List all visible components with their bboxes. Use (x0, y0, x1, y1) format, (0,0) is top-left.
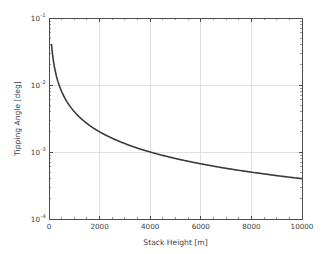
y-tick-exponent: -2 (41, 79, 46, 85)
chart-figure: 0200040006000800010000 10-110-210-310-4 … (0, 0, 322, 254)
x-tick-label: 8000 (242, 222, 261, 231)
y-tick-mantissa: 10 (31, 14, 41, 23)
x-tick-label: 0 (47, 222, 52, 231)
y-tick-exponent: -4 (41, 213, 46, 219)
y-tick-exponent: -3 (41, 146, 46, 152)
plot-background (49, 18, 302, 219)
y-tick-mantissa: 10 (31, 81, 41, 90)
y-tick-exponent: -1 (41, 12, 46, 18)
x-tick-label: 6000 (192, 222, 211, 231)
x-tick-label: 2000 (90, 222, 109, 231)
y-axis-label: Tipping Angle [deg] (13, 81, 22, 157)
chart-svg: 0200040006000800010000 10-110-210-310-4 … (0, 0, 322, 254)
x-tick-label: 4000 (141, 222, 160, 231)
x-axis-label: Stack Height [m] (143, 238, 207, 247)
y-tick-mantissa: 10 (31, 215, 41, 224)
y-tick-mantissa: 10 (31, 148, 41, 157)
x-tick-label: 10000 (291, 222, 314, 231)
